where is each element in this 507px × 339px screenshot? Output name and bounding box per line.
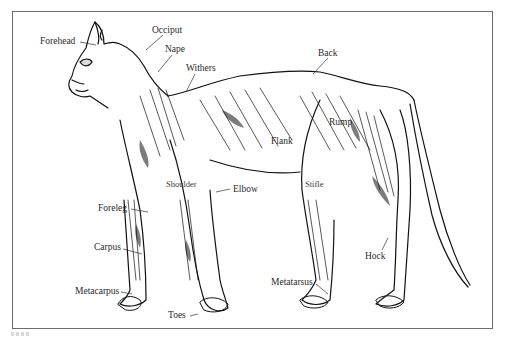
label-hock: Hock [365,252,386,262]
label-stifle: Stifle [305,180,323,189]
cat-foreleg-rear [170,140,228,311]
cat-eye [80,59,92,66]
label-rump: Rump [329,118,352,128]
label-elbow: Elbow [233,185,258,195]
front-paw-left [118,297,141,311]
label-back: Back [318,49,338,59]
label-forehead: Forehead [40,37,75,47]
label-flank: Flank [271,137,293,147]
leader-elbow [216,189,230,192]
leader-nape [158,55,172,72]
cat-tail [410,100,470,287]
leader-toes [190,314,198,316]
leader-metacarpus [121,292,132,294]
leader-metatarsus [316,284,328,294]
label-withers: Withers [186,64,216,74]
label-nape: Nape [165,45,185,55]
label-shoulder: Shoulder [166,180,197,189]
label-metacarpus: Metacarpus [75,287,119,297]
leader-forehead [80,42,96,45]
figure-footnote-mark [11,332,29,336]
cat-belly-outline [210,160,300,173]
label-occiput: Occiput [152,26,182,36]
leader-occiput [146,35,163,50]
cat-hindleg-rear [376,110,411,306]
cat-muzzle [72,80,88,92]
label-toes: Toes [168,311,186,321]
label-metatarsus: Metatarsus [271,278,313,288]
leader-carpus [123,249,142,254]
label-foreleg: Foreleg [98,204,127,214]
label-carpus: Carpus [94,243,121,253]
leader-hock [382,238,388,250]
cat-hindleg-front [302,100,334,305]
cat-back-outline [168,71,414,100]
